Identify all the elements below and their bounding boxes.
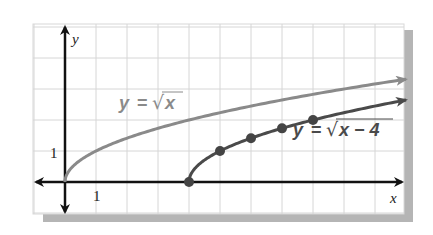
data-point	[184, 177, 194, 187]
x-axis-label: x	[389, 190, 397, 206]
data-point	[246, 133, 256, 143]
svg-text:y =: y =	[292, 120, 322, 140]
data-point	[215, 146, 225, 156]
data-point	[277, 123, 287, 133]
svg-text:x − 4: x − 4	[338, 120, 380, 140]
x-tick-label: 1	[93, 188, 101, 204]
graph: y x 1 1 y = √ x y = √ x − 4	[0, 0, 433, 235]
y-axis-label: y	[70, 31, 79, 47]
svg-text:y =: y =	[118, 93, 148, 113]
radical-sign: √	[152, 91, 165, 113]
label-sqrt-x-minus-4: y = √ x − 4	[292, 118, 393, 140]
svg-text:x: x	[164, 93, 176, 113]
y-tick-label: 1	[50, 145, 58, 161]
radical-sign: √	[326, 118, 339, 140]
